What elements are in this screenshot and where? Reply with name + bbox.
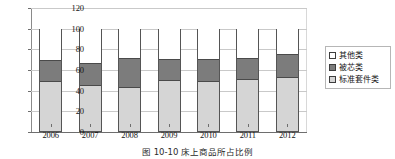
- y-axis-tick-label: 120: [58, 4, 84, 13]
- stacked-bar[interactable]: [276, 29, 299, 132]
- legend-swatch-icon: [329, 64, 336, 71]
- legend-item-label: 被芯类: [339, 63, 363, 72]
- y-axis-tick-label: 40: [58, 87, 84, 96]
- bar-segment-other[interactable]: [237, 28, 258, 58]
- y-axis-tick-mark: [28, 8, 31, 9]
- bar-segment-quilt-core[interactable]: [119, 58, 140, 88]
- y-axis-tick-mark: [28, 49, 31, 50]
- y-axis-tick-label: 20: [58, 107, 84, 116]
- bar-segment-other[interactable]: [159, 28, 180, 59]
- bar-segment-quilt-core[interactable]: [198, 59, 219, 83]
- figure-caption: 图 10-10 床上商品所占比例: [0, 147, 395, 159]
- x-axis-tick-mark: [248, 124, 249, 127]
- x-axis-tick-label: 2012: [264, 131, 310, 140]
- legend-swatch-icon: [329, 76, 336, 83]
- stacked-bar[interactable]: [39, 29, 62, 132]
- x-axis-tick-mark: [287, 124, 288, 127]
- y-axis-tick-label: 60: [58, 66, 84, 75]
- stacked-bar[interactable]: [158, 29, 181, 132]
- legend-item[interactable]: 标准套件类: [329, 74, 387, 85]
- chart-figure: 020406080100120 200620072008200920102011…: [0, 0, 395, 159]
- stacked-bar[interactable]: [197, 29, 220, 132]
- legend-item[interactable]: 被芯类: [329, 62, 387, 73]
- y-axis-tick-label: 80: [58, 45, 84, 54]
- legend-swatch-icon: [329, 52, 336, 59]
- x-axis-tick-mark: [51, 124, 52, 127]
- bar-segment-quilt-core[interactable]: [237, 58, 258, 81]
- legend-item-label: 标准套件类: [339, 75, 379, 84]
- x-axis-tick-mark: [169, 124, 170, 127]
- bar-segment-other[interactable]: [277, 28, 298, 54]
- stacked-bar[interactable]: [118, 29, 141, 132]
- x-axis-tick-mark: [90, 124, 91, 127]
- bar-segment-other[interactable]: [198, 28, 219, 59]
- bar-segment-quilt-core[interactable]: [277, 54, 298, 79]
- y-axis-tick-mark: [28, 111, 31, 112]
- y-axis-tick-label: 100: [58, 25, 84, 34]
- y-axis-tick-mark: [28, 70, 31, 71]
- bar-segment-quilt-core[interactable]: [159, 59, 180, 82]
- y-axis-tick-mark: [28, 29, 31, 30]
- legend-item[interactable]: 其他类: [329, 50, 387, 61]
- legend-item-label: 其他类: [339, 51, 363, 60]
- chart-legend: 其他类被芯类标准套件类: [325, 46, 391, 89]
- y-axis-tick-mark: [28, 91, 31, 92]
- x-axis-tick-mark: [130, 124, 131, 127]
- bar-segment-other[interactable]: [119, 28, 140, 58]
- x-axis-tick-mark: [208, 124, 209, 127]
- stacked-bar[interactable]: [236, 29, 259, 132]
